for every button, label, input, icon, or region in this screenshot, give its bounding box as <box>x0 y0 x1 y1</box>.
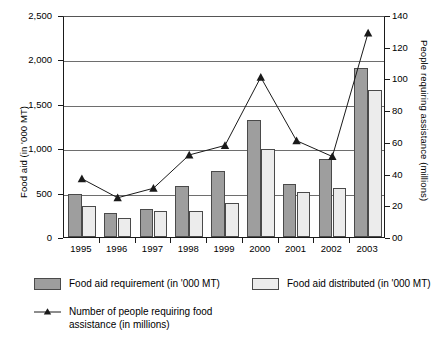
y-axis-right-tick-mark <box>385 111 390 112</box>
y-axis-left-tick-label: 1,500 <box>8 99 52 110</box>
legend-item-people-requiring-assistance: Number of people requiring food assistan… <box>34 305 212 331</box>
line-marker-triangle: 2001: 62 <box>292 136 300 144</box>
y-axis-left-tick-mark <box>58 238 63 239</box>
y-axis-right-tick-mark <box>385 238 390 239</box>
y-axis-left-tick-label: 500 <box>8 188 52 199</box>
line-series-layer: 1995: 381996: 261997: 321998: 531999: 59… <box>64 17 386 239</box>
y-axis-right-tick-mark <box>385 48 390 49</box>
y-axis-right-tick-mark <box>385 143 390 144</box>
y-axis-right-tick-label: 40 <box>392 169 432 180</box>
y-axis-right-tick-label: 60 <box>392 137 432 148</box>
x-axis-tick-mark <box>206 238 207 243</box>
y-axis-left-tick-label: 2,000 <box>8 54 52 65</box>
y-axis-right-tick-label: 120 <box>392 42 432 53</box>
x-axis-tick-label: 1998 <box>170 243 206 254</box>
y-axis-left-tick-mark <box>58 105 63 106</box>
y-axis-left-tick-label: 1,000 <box>8 143 52 154</box>
legend-label-people-line-1: Number of people requiring food <box>69 306 212 317</box>
x-axis-tick-label: 2001 <box>278 243 314 254</box>
legend-line-triangle-icon <box>34 306 61 318</box>
y-axis-left-tick-label: 0 <box>8 232 52 243</box>
legend-label-people-line-2: assistance (in millions) <box>69 319 170 330</box>
y-axis-left-tick-mark <box>58 149 63 150</box>
y-axis-left-tick-mark <box>58 16 63 17</box>
legend-item-food-aid-requirement: Food aid requirement (in '000 MT) <box>34 277 220 290</box>
legend-swatch-distributed-icon <box>252 278 279 290</box>
y-axis-right-tick-label: 00 <box>392 232 432 243</box>
x-axis-tick-label: 1999 <box>206 243 242 254</box>
x-axis-tick-label: 1997 <box>135 243 171 254</box>
y-axis-left-tick-label: 2,500 <box>8 10 52 21</box>
x-axis-tick-mark <box>170 238 171 243</box>
y-axis-right-tick-label: 80 <box>392 105 432 116</box>
x-axis-tick-mark <box>313 238 314 243</box>
x-axis-tick-label: 1995 <box>63 243 99 254</box>
line-marker-triangle: 1995: 38 <box>78 175 86 183</box>
legend-row-primary: Food aid requirement (in '000 MT) Food a… <box>34 277 434 293</box>
legend-label-distributed: Food aid distributed (in '000 MT) <box>287 277 431 290</box>
x-axis-tick-mark <box>349 238 350 243</box>
y-axis-right-tick-label: 100 <box>392 73 432 84</box>
line-marker-triangle: 2002: 52 <box>328 152 336 160</box>
line-marker-triangle: 2003: 130 <box>364 29 372 37</box>
legend-label-people-requiring: Number of people requiring food assistan… <box>69 305 212 331</box>
line-marker-triangle: 2000: 102 <box>257 73 265 81</box>
x-axis-tick-label: 2000 <box>242 243 278 254</box>
y-axis-right-tick-mark <box>385 206 390 207</box>
line-marker-triangle: 1999: 59 <box>221 141 229 149</box>
y-axis-right-tick-mark <box>385 175 390 176</box>
line-path-people-requiring <box>82 33 368 198</box>
legend-item-food-aid-distributed: Food aid distributed (in '000 MT) <box>252 277 431 290</box>
y-axis-left-tick-mark <box>58 194 63 195</box>
x-axis-tick-label: 1996 <box>99 243 135 254</box>
y-axis-left-tick-mark <box>58 60 63 61</box>
legend-row-secondary: Number of people requiring food assistan… <box>34 305 334 335</box>
x-axis-tick-label: 2003 <box>349 243 385 254</box>
legend-label-requirement: Food aid requirement (in '000 MT) <box>69 277 220 290</box>
legend-swatch-requirement-icon <box>34 278 61 290</box>
y-axis-right-tick-mark <box>385 79 390 80</box>
chart-container: Food aid (in '000 MT) People requiring a… <box>0 0 442 346</box>
x-axis-tick-mark <box>135 238 136 243</box>
x-axis-tick-mark <box>242 238 243 243</box>
plot-area: 1995: 381996: 261997: 321998: 531999: 59… <box>63 16 385 238</box>
x-axis-tick-mark <box>278 238 279 243</box>
x-axis-tick-label: 2002 <box>313 243 349 254</box>
y-axis-right-tick-label: 20 <box>392 200 432 211</box>
y-axis-right-tick-label: 140 <box>392 10 432 21</box>
y-axis-right-tick-mark <box>385 16 390 17</box>
x-axis-tick-mark <box>99 238 100 243</box>
